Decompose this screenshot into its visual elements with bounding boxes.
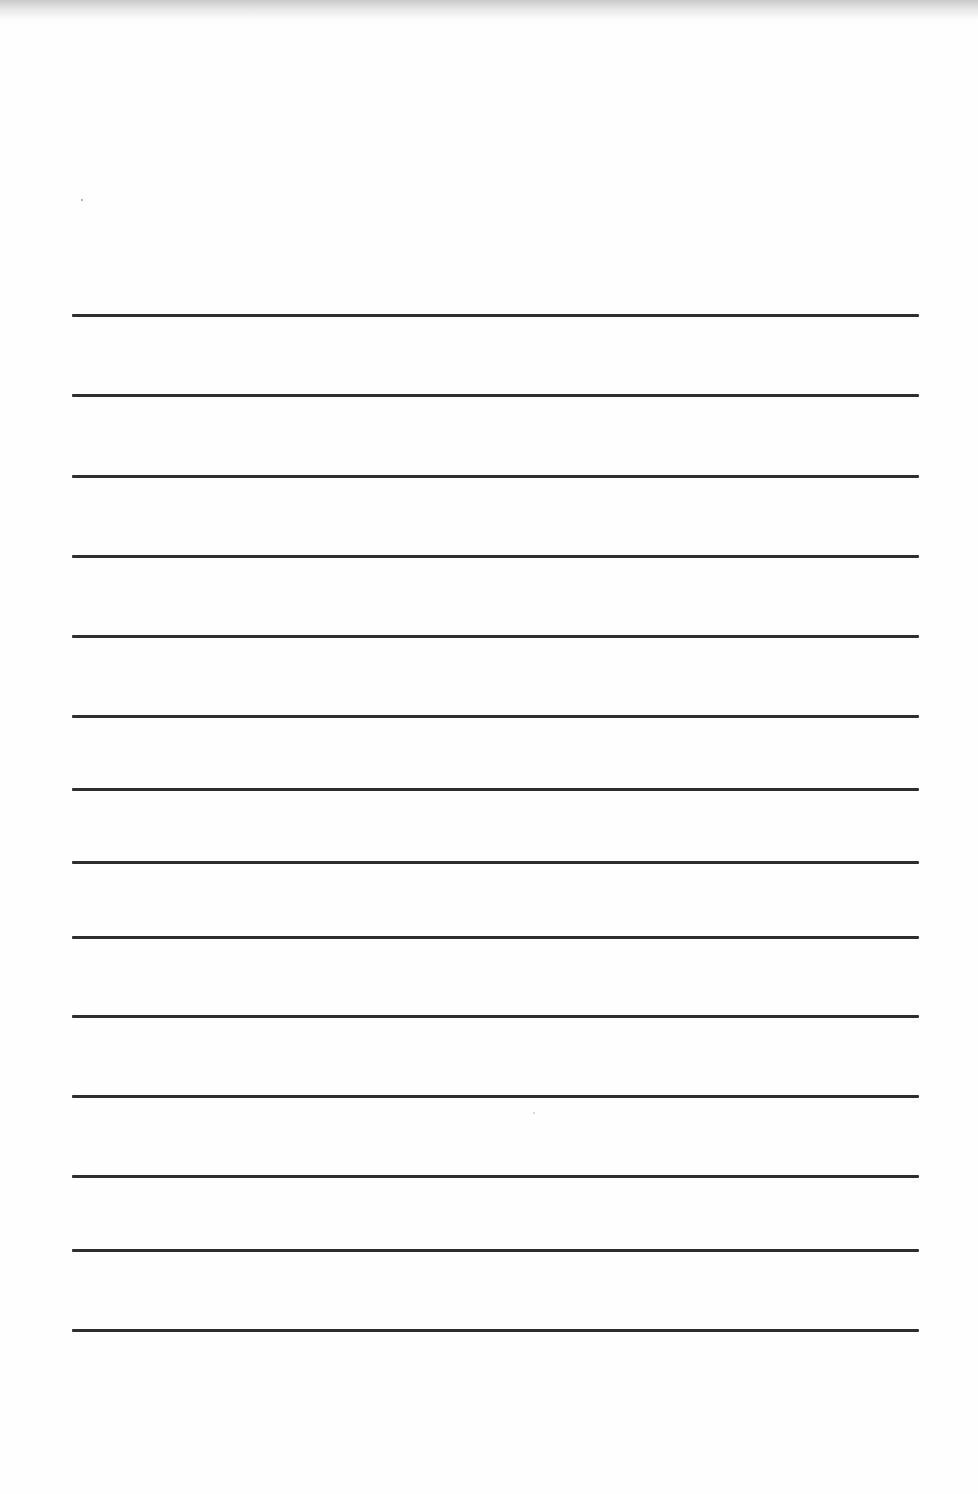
ruled-line [72,1249,919,1252]
ruled-line [72,1329,919,1332]
ruled-line [72,1015,919,1018]
ruled-line [72,1095,919,1098]
ruled-line [72,555,919,558]
ruled-line [72,635,919,638]
ruled-line [72,394,919,397]
ruled-line [72,861,919,864]
ruled-line [72,936,919,939]
ruled-line [72,1175,919,1178]
paper-speck [533,1112,535,1114]
ruled-line [72,788,919,791]
scan-top-edge-shadow [0,0,978,22]
ruled-line [72,314,919,317]
ruled-line [72,475,919,478]
ruled-line [72,715,919,718]
lined-paper-page [0,0,978,1494]
paper-speck [81,199,83,201]
